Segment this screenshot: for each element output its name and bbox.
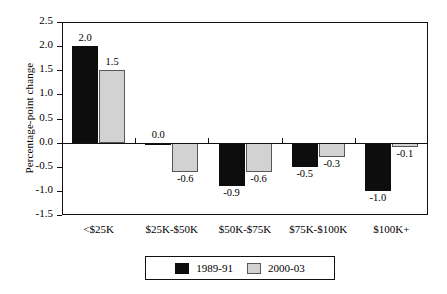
bar <box>172 143 198 172</box>
gray-swatch-icon <box>247 263 261 274</box>
bar-value-label: -0.6 <box>250 173 267 184</box>
x-axis-label: $100K+ <box>373 223 409 235</box>
zero-line <box>62 143 428 144</box>
y-tick-label: -0.5 <box>36 159 53 171</box>
x-axis-label: $25K-$50K <box>146 223 199 235</box>
y-tick-mark <box>57 94 62 95</box>
bar-value-label: -0.5 <box>296 168 313 179</box>
legend-label-1: 2000-03 <box>268 262 305 274</box>
bar-value-label: -0.1 <box>397 148 414 159</box>
y-tick-mark <box>57 215 62 216</box>
black-swatch-icon <box>175 263 189 274</box>
bar <box>72 46 98 143</box>
bar <box>319 143 345 157</box>
y-tick-label: -1.0 <box>36 183 53 195</box>
y-tick-label: 2.5 <box>39 14 53 26</box>
bar <box>246 143 272 172</box>
legend-entry-1: 2000-03 <box>247 262 305 274</box>
bar-value-label: -1.0 <box>370 192 387 203</box>
y-tick-label: 1.0 <box>39 86 53 98</box>
bar-chart: Percentage-point change 2.52.01.51.00.50… <box>0 0 447 294</box>
y-tick-mark <box>57 70 62 71</box>
y-tick-mark <box>57 191 62 192</box>
y-tick-label: 2.0 <box>39 38 53 50</box>
y-tick-mark <box>57 46 62 47</box>
y-tick-label: 1.5 <box>39 62 53 74</box>
y-axis-title: Percentage-point change <box>23 23 35 213</box>
bar-value-label: 1.5 <box>106 56 119 67</box>
x-axis-label: <$25K <box>83 223 114 235</box>
x-axis-label: $75K-$100K <box>289 223 347 235</box>
y-tick-mark <box>57 167 62 168</box>
y-tick-mark <box>57 22 62 23</box>
bar-value-label: -0.3 <box>323 158 340 169</box>
y-tick-label: 0.5 <box>39 111 53 123</box>
chart-legend: 1989-91 2000-03 <box>145 256 335 280</box>
bar-value-label: -0.6 <box>177 173 194 184</box>
legend-entry-0: 1989-91 <box>175 262 233 274</box>
legend-label-0: 1989-91 <box>196 262 233 274</box>
y-tick-label: -1.5 <box>36 207 53 219</box>
bar-value-label: 2.0 <box>79 32 92 43</box>
bar <box>292 143 318 167</box>
bar <box>99 70 125 142</box>
y-tick-label: 0.0 <box>39 135 53 147</box>
bar-value-label: -0.9 <box>223 187 240 198</box>
bar-value-label: 0.0 <box>152 129 165 140</box>
y-tick-mark <box>57 119 62 120</box>
bar <box>365 143 391 191</box>
x-axis-label: $50K-$75K <box>219 223 272 235</box>
bar <box>219 143 245 186</box>
